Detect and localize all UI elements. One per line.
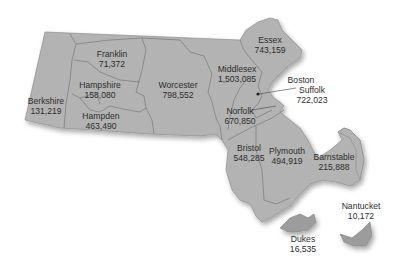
county-name: Dukes — [290, 234, 316, 244]
county-name: Berkshire — [28, 96, 64, 106]
county-label-nantucket: Nantucket 10,172 — [342, 201, 381, 221]
county-label-suffolk: Suffolk 722,023 — [296, 85, 327, 105]
county-population: 71,372 — [97, 59, 128, 69]
county-name: Norfolk — [224, 106, 255, 116]
dukes-island — [280, 214, 316, 232]
county-label-barnstable: Barnstable 215,888 — [313, 152, 354, 172]
county-population: 131,219 — [28, 106, 64, 116]
county-label-worcester: Worcester 798,552 — [159, 80, 198, 100]
county-label-hampshire: Hampshire 158,080 — [79, 80, 121, 100]
massachusetts-map — [0, 0, 398, 266]
nantucket-island — [340, 222, 372, 246]
county-name: Essex — [254, 35, 285, 45]
county-population: 10,172 — [342, 211, 381, 221]
county-label-essex: Essex 743,159 — [254, 35, 285, 55]
county-label-bristol: Bristol 548,285 — [233, 143, 264, 163]
county-name: Hampden — [82, 111, 119, 121]
county-label-dukes: Dukes 16,535 — [290, 234, 316, 254]
city-name: Boston — [288, 75, 315, 85]
county-population: 494,919 — [269, 156, 305, 166]
county-name: Franklin — [97, 49, 128, 59]
city-label-boston: Boston — [288, 75, 315, 85]
county-population: 16,535 — [290, 244, 316, 254]
county-label-berkshire: Berkshire 131,219 — [28, 96, 64, 116]
county-population: 670,850 — [224, 116, 255, 126]
county-population: 1,503,085 — [218, 74, 257, 84]
county-population: 215,888 — [313, 162, 354, 172]
county-name: Bristol — [233, 143, 264, 153]
county-name: Worcester — [159, 80, 198, 90]
county-label-plymouth: Plymouth 494,919 — [269, 146, 305, 166]
county-name: Hampshire — [79, 80, 121, 90]
county-population: 548,285 — [233, 153, 264, 163]
county-name: Barnstable — [313, 152, 354, 162]
county-label-norfolk: Norfolk 670,850 — [224, 106, 255, 126]
county-label-franklin: Franklin 71,372 — [97, 49, 128, 69]
county-name: Nantucket — [342, 201, 381, 211]
county-population: 158,080 — [79, 90, 121, 100]
county-label-middlesex: Middlesex 1,503,085 — [218, 64, 257, 84]
county-population: 722,023 — [296, 95, 327, 105]
mainland-shape — [25, 18, 364, 222]
county-label-hampden: Hampden 463,490 — [82, 111, 119, 131]
county-population: 798,552 — [159, 90, 198, 100]
county-name: Middlesex — [218, 64, 257, 74]
county-name: Suffolk — [296, 85, 327, 95]
county-population: 743,159 — [254, 45, 285, 55]
county-population: 463,490 — [82, 121, 119, 131]
county-name: Plymouth — [269, 146, 305, 156]
